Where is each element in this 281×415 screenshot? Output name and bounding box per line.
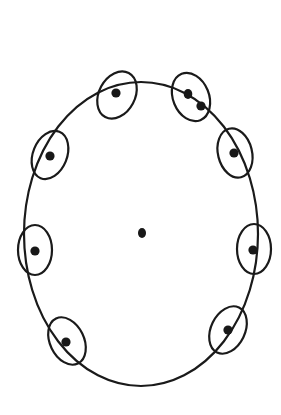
satellite-node-dot bbox=[229, 148, 238, 157]
center-dot bbox=[138, 228, 146, 238]
satellite-node-dot bbox=[111, 88, 120, 97]
diagram-canvas bbox=[0, 0, 281, 415]
satellite-node-dot bbox=[223, 325, 232, 334]
figure-root bbox=[0, 0, 281, 415]
satellite-node-dot bbox=[30, 246, 39, 255]
satellite-node-dot bbox=[61, 337, 70, 346]
satellite-node-dot bbox=[45, 151, 54, 160]
satellite-node-dot bbox=[184, 89, 193, 99]
figure-background bbox=[0, 0, 281, 415]
satellite-node-dot bbox=[248, 245, 257, 254]
ring-extra-dot bbox=[196, 101, 205, 110]
